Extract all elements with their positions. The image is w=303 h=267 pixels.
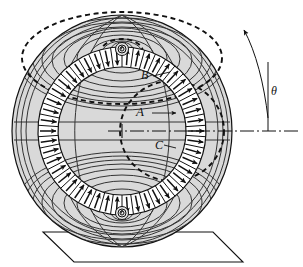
label-c: C bbox=[155, 139, 163, 151]
label-theta: θ bbox=[271, 85, 277, 97]
pole-marker-top bbox=[116, 43, 129, 56]
theta-indicator bbox=[244, 30, 268, 131]
label-b: B bbox=[141, 69, 148, 81]
label-a: A bbox=[136, 105, 144, 118]
pole-marker-bottom bbox=[116, 207, 129, 220]
figure-canvas: A B C θ bbox=[0, 0, 303, 267]
sphere-field-diagram bbox=[0, 0, 303, 267]
